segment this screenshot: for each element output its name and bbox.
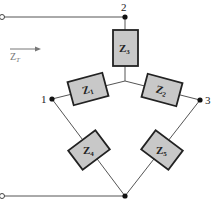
impedance-z2: Z2 bbox=[142, 74, 183, 106]
node-3-label: 3 bbox=[205, 94, 211, 106]
node-2 bbox=[122, 14, 127, 19]
impedance-z3: Z3 bbox=[113, 30, 138, 66]
node-1 bbox=[49, 96, 54, 101]
impedance-z4: Z4 bbox=[68, 130, 110, 170]
node-2-label: 2 bbox=[121, 1, 127, 13]
input-terminal-bottom bbox=[0, 194, 5, 199]
node-1-label: 1 bbox=[41, 93, 47, 105]
circuit-diagram: 2 1 3 Z3 Z1 Z2 Z4 Z5 ZT bbox=[0, 0, 215, 213]
svg-text:ZT: ZT bbox=[10, 51, 21, 64]
input-impedance-arrow: ZT bbox=[10, 47, 41, 65]
impedance-z5: Z5 bbox=[141, 130, 183, 170]
impedance-z1: Z1 bbox=[68, 73, 109, 105]
input-terminal-top bbox=[0, 15, 5, 20]
node-bottom bbox=[122, 193, 127, 198]
node-3 bbox=[197, 97, 202, 102]
